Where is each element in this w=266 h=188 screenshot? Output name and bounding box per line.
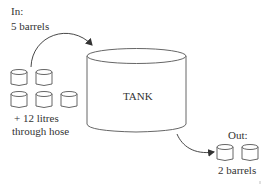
output-heading: Out: [228,129,248,142]
arrow-out-icon [177,134,214,153]
barrel-icon [11,92,27,108]
barrel-icon [11,70,27,86]
barrel-icon [36,92,52,108]
input-barrels [11,70,77,108]
barrel-icon [242,145,258,161]
input-heading: In: [11,5,23,18]
output-barrels-label: 2 barrels [218,164,256,177]
output-barrels [217,145,258,161]
tank-label: TANK [123,90,153,103]
arrow-in-icon [31,33,92,67]
hose-label-line2: through hose [12,125,69,138]
barrel-icon [217,145,233,161]
barrel-icon [61,92,77,108]
input-barrels-label: 5 barrels [11,20,49,33]
hose-label-line1: + 12 litres [14,112,59,125]
barrel-icon [36,70,52,86]
